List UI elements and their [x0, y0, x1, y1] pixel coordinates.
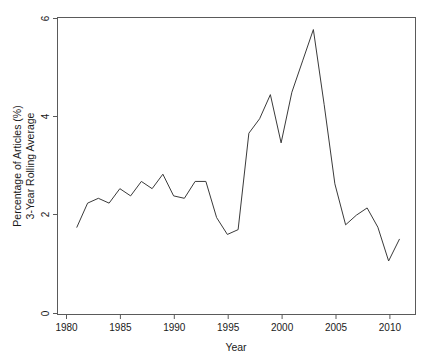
y-tick-label-2: 2: [40, 211, 51, 217]
plot-frame: [58, 18, 416, 315]
y-tick-label-4: 4: [40, 113, 51, 119]
y-tick-label-6: 6: [40, 15, 51, 21]
y-axis-title: Percentage of Articles (%) 3-Year Rollin…: [11, 105, 36, 226]
x-axis-tick-labels: 1980 1985 1990 1995 2000 2005 2010: [55, 322, 401, 333]
line-chart-canvas: 0 2 4 6 Percentage of Articles (%) 3-Yea…: [0, 0, 432, 362]
x-tick-label-2000: 2000: [271, 322, 294, 333]
x-axis-ticks: [67, 315, 390, 320]
data-series-line: [77, 30, 400, 261]
y-axis-title-line2: 3-Year Rolling Average: [24, 112, 36, 219]
x-tick-label-2005: 2005: [325, 322, 348, 333]
chart-figure: 0 2 4 6 Percentage of Articles (%) 3-Yea…: [0, 0, 432, 362]
x-tick-label-1985: 1985: [109, 322, 132, 333]
x-tick-label-1980: 1980: [55, 322, 78, 333]
x-axis-title: Year: [225, 341, 247, 353]
x-tick-label-1995: 1995: [217, 322, 240, 333]
y-axis-title-line1: Percentage of Articles (%): [11, 105, 23, 226]
x-tick-label-1990: 1990: [163, 322, 186, 333]
y-axis-ticks: [53, 19, 58, 314]
x-tick-label-2010: 2010: [379, 322, 402, 333]
y-axis-tick-labels: 0 2 4 6: [40, 15, 51, 316]
y-tick-label-0: 0: [40, 310, 51, 316]
